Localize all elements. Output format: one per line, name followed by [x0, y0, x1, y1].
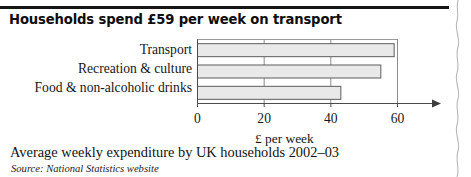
x-tick-label: 40 [316, 112, 346, 126]
chart-caption: Average weekly expenditure by UK househo… [10, 144, 339, 161]
plot-svg [0, 36, 460, 114]
chart-headline: Households spend £59 per week on transpo… [9, 12, 439, 27]
tickmark-group [198, 104, 398, 108]
headline-top-rule [0, 6, 449, 9]
x-tick-label: 20 [249, 112, 279, 126]
chart-figure: Households spend £59 per week on transpo… [0, 0, 471, 177]
bar [198, 65, 381, 78]
plot-area [0, 36, 460, 114]
x-axis-arrow-icon [432, 100, 441, 108]
bar-group [198, 44, 395, 100]
x-tick-label: 60 [383, 112, 413, 126]
bar [198, 86, 341, 99]
chart-source: Source: National Statistics website [11, 163, 159, 174]
x-tick-label: 0 [183, 112, 213, 126]
bar [198, 44, 395, 57]
